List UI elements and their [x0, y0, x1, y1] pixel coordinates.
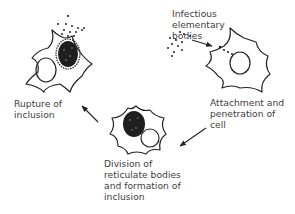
arrow-to-division: [180, 128, 206, 146]
label-infectious-bodies: Infectious elementary bodies: [172, 8, 225, 41]
label-division: Division of reticulate bodies and format…: [104, 158, 181, 202]
label-rupture: Rupture of inclusion: [14, 98, 62, 120]
label-attachment: Attachment and penetration of cell: [210, 97, 284, 130]
ruptured-cell-icon: [26, 30, 92, 92]
arrow-to-rupture: [82, 106, 98, 122]
released-bodies-icon: [57, 15, 85, 37]
